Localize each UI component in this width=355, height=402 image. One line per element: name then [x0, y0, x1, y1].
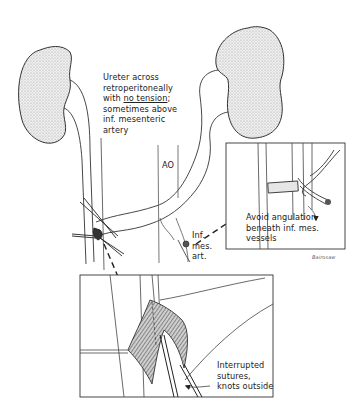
angulation-note: Avoid angulation beneath inf. mes. vesse…: [246, 212, 319, 244]
aorta-label: AO: [162, 160, 174, 171]
surgical-illustration: [0, 0, 355, 402]
left-kidney: [19, 47, 72, 144]
ureter-note-suffix: ;: [167, 93, 170, 103]
ureter-note-line4: sometimes above: [103, 104, 177, 115]
inf-mes-art-line2: mes.: [192, 241, 212, 252]
no-tension-emphasis: no tension: [123, 93, 167, 103]
suture-note-line3: knots outside: [217, 381, 274, 392]
angulation-note-line1: Avoid angulation: [246, 212, 319, 223]
inf-mes-art-line1: Inf.: [192, 230, 212, 241]
ureter-note-line5: inf. mesenteric: [103, 114, 177, 125]
angulation-note-line3: vessels: [246, 233, 319, 244]
ureter-note-line2: retroperitoneally: [103, 83, 177, 94]
suture-note-line2: sutures,: [217, 371, 274, 382]
suture-note: Interrupted sutures, knots outside: [217, 360, 274, 392]
artist-signature: Bairosaw: [312, 252, 336, 263]
ureter-note-prefix: with: [103, 93, 123, 103]
ureter-note: Ureter across retroperitoneally with no …: [103, 72, 177, 136]
right-kidney: [216, 27, 284, 139]
inf-mes-art-label: Inf. mes. art.: [192, 230, 212, 262]
ureter-note-line1: Ureter across: [103, 72, 177, 83]
ureter-note-line6: artery: [103, 125, 177, 136]
ureter-note-line3: with no tension;: [103, 93, 177, 104]
suture-note-line1: Interrupted: [217, 360, 274, 371]
inferior-mesenteric-artery: [178, 240, 190, 262]
inf-mes-art-line3: art.: [192, 251, 212, 262]
vena-cava: [101, 138, 104, 270]
anastomosis-site: [72, 198, 124, 256]
angulation-note-line2: beneath inf. mes.: [246, 223, 319, 234]
